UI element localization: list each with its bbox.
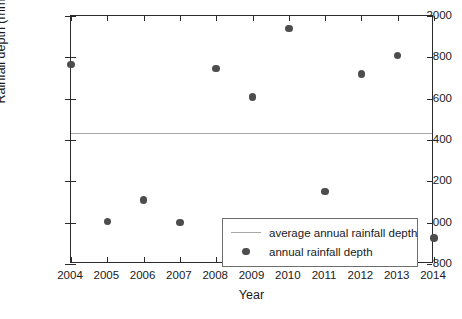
x-tick-label: 2011 [312, 269, 337, 281]
legend-label-average: average annual rainfall depth [269, 227, 417, 239]
x-tick-label: 2014 [420, 269, 446, 281]
x-tick-label: 2007 [166, 269, 192, 281]
data-point-marker [176, 219, 184, 227]
y-tick-mark-right [427, 264, 432, 265]
x-tick-label: 2005 [94, 269, 120, 281]
data-point-marker [321, 188, 329, 196]
y-tick-mark-inner [71, 264, 76, 265]
legend-label-annual: annual rainfall depth [269, 246, 373, 258]
x-tick-mark-top [434, 16, 435, 21]
data-point-marker [67, 61, 75, 69]
chart-legend: average annual rainfall depth annual rai… [222, 218, 418, 267]
data-point-marker [212, 65, 220, 73]
x-tick-label: 2012 [348, 269, 374, 281]
x-tick-mark [434, 257, 435, 262]
dot-marker-icon [223, 248, 269, 256]
data-point-marker [140, 196, 148, 204]
chart-figure: Rainfall depth (mm) Year 800100012001400… [0, 0, 462, 319]
x-tick-label: 2008 [202, 269, 228, 281]
x-tick-label: 2010 [275, 269, 301, 281]
data-point-marker [285, 25, 293, 33]
y-axis-title: Rainfall depth (mm) [0, 0, 8, 139]
x-tick-label: 2006 [130, 269, 156, 281]
data-point-marker [249, 93, 257, 101]
line-marker-icon [223, 232, 269, 233]
data-point-marker [430, 234, 438, 242]
data-point-marker [394, 52, 402, 60]
x-tick-label: 2013 [384, 269, 410, 281]
data-point-marker [358, 70, 366, 78]
data-point-marker [104, 218, 112, 226]
x-tick-label: 2004 [57, 269, 83, 281]
legend-item-average: average annual rainfall depth [223, 223, 417, 242]
x-axis-title: Year [70, 288, 433, 302]
x-tick-label: 2009 [239, 269, 265, 281]
legend-item-annual: annual rainfall depth [223, 242, 417, 261]
average-rainfall-line [71, 133, 432, 134]
